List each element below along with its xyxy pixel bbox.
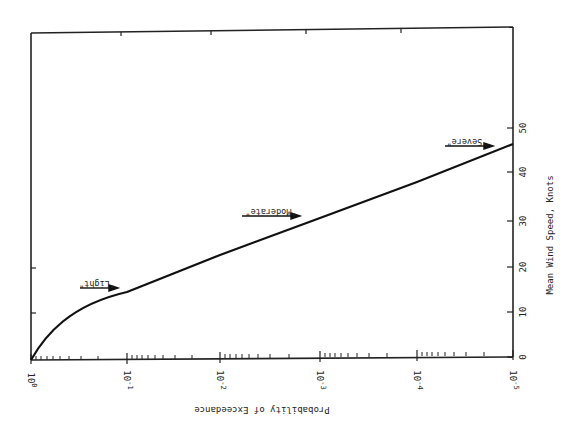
x-tick-1e-5: 10-5 bbox=[508, 370, 520, 389]
x-axis-line bbox=[31, 357, 513, 360]
x-tick-1e-4: 10-4 bbox=[412, 370, 424, 389]
y-tick-20: 20 bbox=[518, 262, 528, 273]
y-tick-30: 30 bbox=[518, 216, 528, 227]
plot-frame bbox=[31, 27, 513, 360]
y-tick-labels: 0 10 20 30 40 50 bbox=[518, 123, 528, 360]
x-tick-labels: 100 10-1 10-2 10-3 10-4 10-5 bbox=[26, 370, 520, 389]
y-tick-10: 10 bbox=[518, 307, 528, 318]
y-axis-ticks bbox=[507, 128, 513, 357]
x-axis-title: Probability of Exceedance bbox=[194, 405, 329, 415]
x-tick-1e0: 100 bbox=[26, 372, 38, 387]
svg-text:10-3: 10-3 bbox=[315, 370, 327, 389]
y-tick-0: 0 bbox=[518, 354, 528, 359]
y-tick-40: 40 bbox=[518, 167, 528, 178]
svg-text:10-2: 10-2 bbox=[215, 370, 227, 389]
x-tick-1e-2: 10-2 bbox=[215, 370, 227, 389]
y-axis-title: Mean Wind Speed, Knots bbox=[545, 175, 555, 294]
y-tick-50: 50 bbox=[518, 123, 528, 134]
svg-text:10-1: 10-1 bbox=[122, 370, 134, 389]
svg-text:10-5: 10-5 bbox=[508, 370, 520, 389]
annotation-moderate: "Moderate" bbox=[245, 207, 296, 217]
top-border bbox=[31, 27, 513, 33]
svg-text:100: 100 bbox=[26, 372, 38, 387]
svg-text:10-4: 10-4 bbox=[412, 370, 424, 389]
x-tick-1e-3: 10-3 bbox=[315, 370, 327, 389]
annotation-severe: "Severe" bbox=[447, 137, 488, 147]
wind-speed-chart: 0 10 20 30 40 50 Mean Wind Speed, Knots bbox=[0, 0, 565, 446]
x-tick-1e-1: 10-1 bbox=[122, 370, 134, 389]
annotation-light: "Light" bbox=[79, 279, 115, 289]
wind-speed-curve bbox=[31, 144, 513, 360]
